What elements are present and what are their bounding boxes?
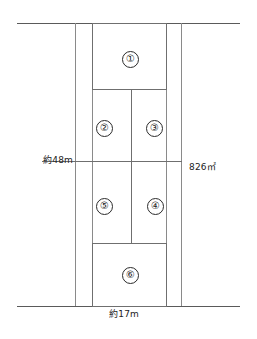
parcel-label-3: ③ (146, 120, 163, 137)
land-plot-diagram: ① ② ③ ⑤ ④ ⑥ 約48m 826㎡ 約17m (0, 0, 257, 339)
parcel-label-4: ④ (147, 198, 164, 215)
left-outer-vertical-line (75, 23, 76, 306)
right-outer-vertical-line (181, 23, 182, 306)
total-area-label: 826㎡ (189, 160, 216, 173)
parcel-label-1: ① (122, 51, 139, 68)
left-length-dimension: 約48m (43, 153, 73, 166)
center-divider-vertical-line (131, 89, 132, 243)
parcel-label-2: ② (96, 120, 113, 137)
bottom-width-dimension: 約17m (109, 307, 139, 320)
parcel-label-6: ⑥ (122, 267, 139, 284)
parcel-label-5: ⑤ (96, 198, 113, 215)
mid-divider-horizontal-line (75, 161, 182, 162)
